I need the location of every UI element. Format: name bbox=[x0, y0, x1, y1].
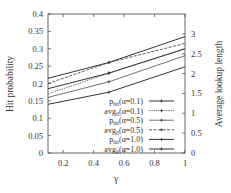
y2-axis-title: Average lookup length bbox=[214, 41, 224, 128]
plus-marker bbox=[107, 91, 110, 94]
plus-marker bbox=[107, 72, 110, 75]
y2-tick-label: 2 bbox=[191, 69, 195, 79]
series-lines bbox=[48, 37, 185, 105]
y2-tick-label: 2.5 bbox=[191, 49, 202, 59]
x-tick-label: 0.6 bbox=[119, 158, 130, 168]
x-tick-label: 0.2 bbox=[58, 158, 69, 168]
y2-tick-label: 0 bbox=[191, 148, 195, 158]
legend-label: avgll(α=1.0) bbox=[104, 145, 143, 155]
legend-label: avgll(α=0.1) bbox=[104, 107, 143, 117]
legend-label: phit(α=1.0) bbox=[109, 135, 143, 145]
y-tick-label: 0.15 bbox=[28, 96, 43, 106]
series-line bbox=[48, 67, 185, 105]
y2-tick-label: 0.5 bbox=[191, 128, 202, 138]
y-tick-label: 0.35 bbox=[28, 26, 43, 36]
series-line bbox=[48, 37, 185, 79]
legend-label: phit(α=0.5) bbox=[109, 116, 143, 126]
x-tick-label: 1 bbox=[183, 158, 187, 168]
y2-tick-label: 1 bbox=[191, 108, 195, 118]
line-chart: 00.050.10.150.20.250.30.350.400.511.522.… bbox=[0, 0, 231, 193]
plus-marker bbox=[160, 109, 163, 112]
y-tick-label: 0.05 bbox=[28, 131, 43, 141]
plus-marker bbox=[107, 80, 110, 83]
series-line bbox=[48, 56, 185, 98]
plus-marker bbox=[107, 61, 110, 64]
x-tick-label: 0.4 bbox=[88, 158, 99, 168]
y2-tick-label: 3 bbox=[191, 29, 195, 39]
legend-label: phit(α=0.1) bbox=[109, 97, 143, 107]
y-tick-label: 0.25 bbox=[28, 61, 43, 71]
y-tick-label: 0.2 bbox=[32, 79, 43, 89]
y-tick-label: 0.4 bbox=[32, 9, 43, 19]
y-tick-label: 0.3 bbox=[32, 44, 43, 54]
plus-marker bbox=[160, 119, 163, 122]
y2-tick-label: 1.5 bbox=[191, 88, 202, 98]
series-line bbox=[48, 43, 185, 83]
plus-marker bbox=[160, 100, 163, 103]
plus-marker bbox=[160, 128, 163, 131]
y-axis-title: Hit probability bbox=[5, 56, 15, 112]
series-line bbox=[48, 49, 185, 89]
x-axis-title: γ bbox=[113, 174, 118, 184]
y-tick-label: 0.1 bbox=[32, 113, 43, 123]
plus-marker bbox=[160, 148, 163, 151]
legend-label: avgll(α=0.5) bbox=[104, 126, 143, 136]
plus-marker bbox=[160, 138, 163, 141]
legend: phit(α=0.1)avgll(α=0.1)phit(α=0.5)avgll(… bbox=[104, 97, 174, 155]
y-tick-label: 0 bbox=[39, 148, 43, 158]
x-tick-label: 0.8 bbox=[149, 158, 160, 168]
